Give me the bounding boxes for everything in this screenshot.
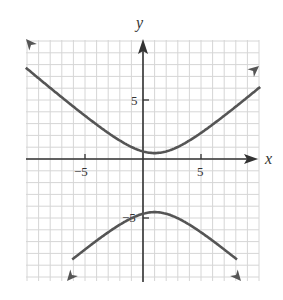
x-axis-label: x (264, 150, 272, 167)
x-tick-label-pos5: 5 (197, 164, 204, 179)
x-tick-label-neg5: −5 (74, 164, 88, 179)
y-axis-label: y (134, 14, 144, 32)
y-tick-label-pos5: 5 (131, 93, 138, 108)
hyperbola-graph: x y −5 5 5 −5 (0, 0, 283, 300)
